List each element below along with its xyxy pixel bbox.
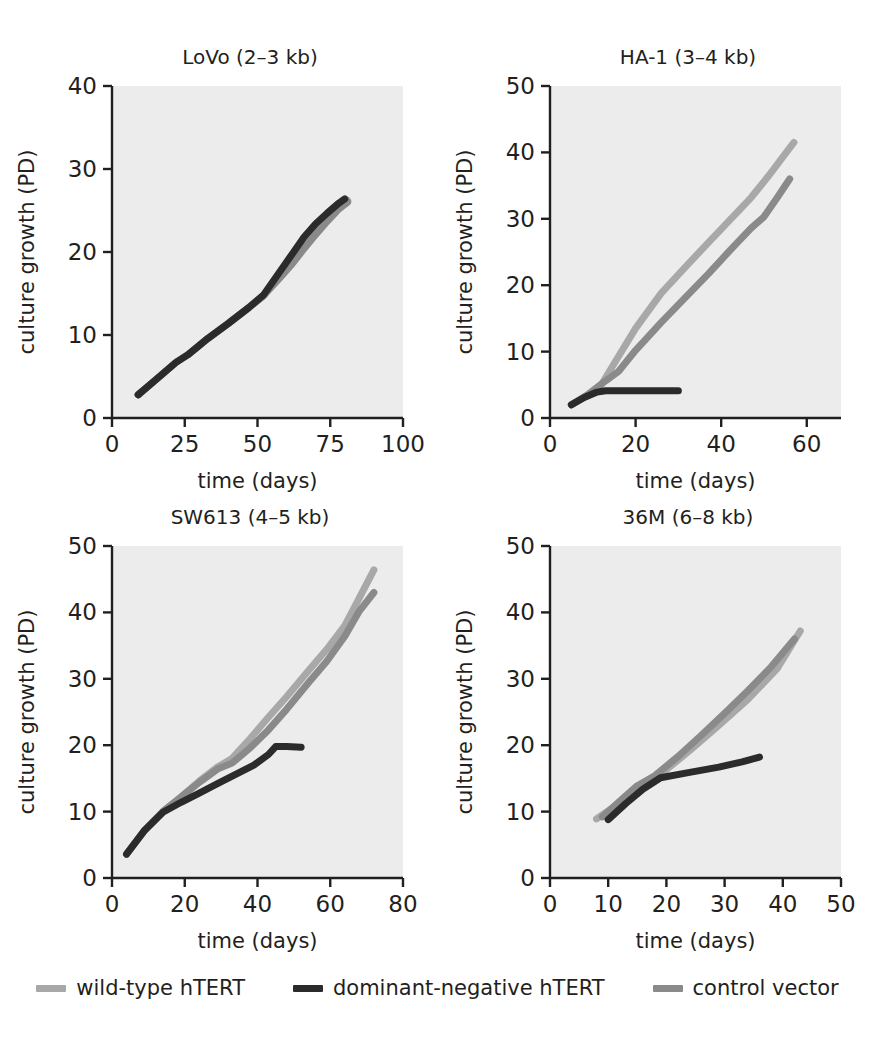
y-axis-title: culture growth (PD) — [453, 610, 477, 815]
chart-svg-lovo: LoVo (2–3 kb) 0102030400255075100time (d… — [0, 40, 437, 500]
y-tick-label: 0 — [82, 405, 97, 431]
x-tick-label: 20 — [652, 891, 681, 917]
y-tick-label: 20 — [506, 732, 535, 758]
y-axis-title: culture growth (PD) — [15, 610, 39, 815]
y-tick-label: 10 — [68, 322, 97, 348]
x-tick-label: 75 — [316, 431, 345, 457]
y-tick-label: 10 — [506, 799, 535, 825]
x-axis-title: time (days) — [197, 929, 317, 953]
y-tick-label: 30 — [506, 206, 535, 232]
x-tick-label: 0 — [105, 431, 120, 457]
x-tick-label: 100 — [381, 431, 425, 457]
y-tick-label: 0 — [520, 865, 535, 891]
y-tick-label: 0 — [82, 865, 97, 891]
y-tick-label: 30 — [68, 156, 97, 182]
chart-svg-36m: 36M (6–8 kb) 0102030405001020304050time … — [438, 500, 875, 960]
plot-area: 0102030400255075100time (days)culture gr… — [15, 73, 425, 493]
x-axis-title: time (days) — [635, 929, 755, 953]
y-tick-label: 50 — [506, 533, 535, 559]
legend-item: dominant-negative hTERT — [293, 976, 605, 1000]
legend-label: dominant-negative hTERT — [333, 976, 605, 1000]
x-tick-label: 50 — [826, 891, 855, 917]
legend-label: control vector — [693, 976, 839, 1000]
chart-panel-ha1: HA-1 (3–4 kb) 010203040500204060time (da… — [438, 40, 875, 500]
y-tick-label: 10 — [506, 339, 535, 365]
chart-panel-lovo: LoVo (2–3 kb) 0102030400255075100time (d… — [0, 40, 437, 500]
x-tick-label: 20 — [170, 891, 199, 917]
y-axis-title: culture growth (PD) — [453, 150, 477, 355]
plot-area: 010203040500204060time (days)culture gro… — [453, 73, 841, 493]
chart-svg-sw613: SW613 (4–5 kb) 01020304050020406080time … — [0, 500, 437, 960]
x-tick-label: 0 — [543, 891, 558, 917]
y-tick-label: 40 — [506, 139, 535, 165]
chart-panel-sw613: SW613 (4–5 kb) 01020304050020406080time … — [0, 500, 437, 960]
panel-title: 36M (6–8 kb) — [623, 505, 754, 529]
legend-swatch-dominant-negative-icon — [293, 985, 323, 992]
y-tick-label: 30 — [506, 666, 535, 692]
y-tick-label: 0 — [520, 405, 535, 431]
chart-svg-ha1: HA-1 (3–4 kb) 010203040500204060time (da… — [438, 40, 875, 500]
x-tick-label: 0 — [543, 431, 558, 457]
legend-item: control vector — [653, 976, 839, 1000]
x-tick-label: 0 — [105, 891, 120, 917]
x-tick-label: 60 — [316, 891, 345, 917]
x-tick-label: 80 — [388, 891, 417, 917]
panel-title: HA-1 (3–4 kb) — [620, 45, 756, 69]
plot-background — [112, 86, 403, 418]
y-axis-title: culture growth (PD) — [15, 150, 39, 355]
x-tick-label: 60 — [792, 431, 821, 457]
legend-swatch-wild-type-icon — [36, 985, 66, 992]
x-tick-label: 40 — [243, 891, 272, 917]
plot-area: 0102030405001020304050time (days)culture… — [453, 533, 856, 953]
legend-item: wild-type hTERT — [36, 976, 245, 1000]
y-tick-label: 20 — [506, 272, 535, 298]
plot-area: 01020304050020406080time (days)culture g… — [15, 533, 418, 953]
panel-title: SW613 (4–5 kb) — [171, 505, 330, 529]
y-tick-label: 50 — [68, 533, 97, 559]
y-tick-label: 20 — [68, 732, 97, 758]
x-tick-label: 30 — [710, 891, 739, 917]
y-tick-label: 40 — [68, 599, 97, 625]
y-tick-label: 30 — [68, 666, 97, 692]
x-axis-title: time (days) — [197, 469, 317, 493]
chart-panel-36m: 36M (6–8 kb) 0102030405001020304050time … — [438, 500, 875, 960]
figure-root: LoVo (2–3 kb) 0102030400255075100time (d… — [0, 0, 875, 1050]
plot-background — [550, 546, 841, 878]
legend-label: wild-type hTERT — [76, 976, 245, 1000]
figure-legend: wild-type hTERT dominant-negative hTERT … — [0, 958, 875, 1018]
y-tick-label: 20 — [68, 239, 97, 265]
y-tick-label: 10 — [68, 799, 97, 825]
x-tick-label: 25 — [170, 431, 199, 457]
x-tick-label: 50 — [243, 431, 272, 457]
legend-swatch-control-vector-icon — [653, 985, 683, 992]
x-tick-label: 40 — [768, 891, 797, 917]
x-tick-label: 10 — [594, 891, 623, 917]
y-tick-label: 50 — [506, 73, 535, 99]
x-axis-title: time (days) — [635, 469, 755, 493]
y-tick-label: 40 — [68, 73, 97, 99]
y-tick-label: 40 — [506, 599, 535, 625]
x-tick-label: 20 — [621, 431, 650, 457]
x-tick-label: 40 — [707, 431, 736, 457]
panel-title: LoVo (2–3 kb) — [182, 45, 317, 69]
